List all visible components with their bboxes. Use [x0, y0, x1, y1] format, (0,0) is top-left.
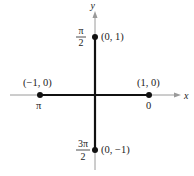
point-left-coord: (−1, 0)	[23, 77, 52, 89]
x-axis-label: x	[183, 90, 189, 101]
y-axis-arrow-icon	[93, 11, 98, 18]
point-top-dot	[92, 34, 98, 40]
point-top-angle-numerator: π	[78, 25, 83, 36]
point-top-angle-denominator: 2	[79, 37, 84, 48]
point-left-dot	[37, 92, 43, 98]
point-right-dot	[146, 92, 152, 98]
point-bottom-angle-denominator: 2	[81, 151, 86, 162]
unit-circle-angle-diagram: x y (1, 0) 0 (0, 1) π 2 (−1, 0) π (0, −1…	[0, 0, 194, 176]
point-bottom-angle-numerator: 3π	[78, 138, 88, 149]
y-axis-label: y	[90, 0, 96, 11]
point-bottom-dot	[92, 147, 98, 153]
point-right-angle: 0	[146, 100, 151, 111]
point-right-coord: (1, 0)	[137, 77, 160, 89]
point-bottom-coord: (0, −1)	[101, 144, 130, 156]
point-left-angle: π	[36, 100, 42, 111]
x-axis-arrow-icon	[174, 93, 181, 98]
point-top-coord: (0, 1)	[101, 31, 124, 43]
